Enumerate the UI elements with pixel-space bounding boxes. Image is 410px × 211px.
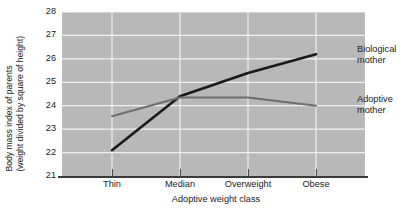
series-label-adoptive-line-1: Adoptive — [357, 94, 393, 105]
series-lines — [112, 54, 316, 150]
y-axis-tick-labels: 2827262524232221 — [34, 0, 56, 211]
y-tick-label-26: 26 — [34, 54, 56, 63]
chart-figure: Body mass index of parents (weight divid… — [0, 0, 410, 211]
x-tick-label-thin: Thin — [103, 180, 121, 189]
x-tick-label-median: Median — [165, 180, 195, 189]
y-tick-label-23: 23 — [34, 125, 56, 134]
plot-area — [62, 12, 365, 176]
y-tick-label-28: 28 — [34, 7, 56, 16]
series-label-biological-line-2: mother — [357, 55, 396, 66]
y-axis-title-line-1: Body mass index of parents — [5, 66, 14, 172]
x-axis-title-text: Adoptive weight class — [172, 194, 260, 204]
y-tick-label-24: 24 — [34, 101, 56, 110]
y-tick-label-25: 25 — [34, 78, 56, 87]
series-label-biological-mother: Biological mother — [357, 44, 396, 66]
x-axis-title: Adoptive weight class — [0, 195, 410, 204]
x-tick-mark-overweight — [248, 169, 249, 176]
y-tick-label-21: 21 — [34, 171, 56, 180]
x-tick-label-overweight: Overweight — [225, 180, 271, 189]
x-tick-mark-thin — [112, 169, 113, 176]
series-label-adoptive-line-2: mother — [357, 105, 393, 116]
x-tick-mark-median — [180, 169, 181, 176]
series-line-adoptive-mother — [112, 98, 316, 117]
plot-svg — [62, 12, 365, 176]
x-axis-line — [58, 176, 368, 178]
y-axis-title-line-2: (weight divided by square of height) — [16, 36, 25, 172]
series-label-biological-line-1: Biological — [357, 44, 396, 55]
x-tick-mark-obese — [316, 169, 317, 176]
x-tick-label-obese: Obese — [302, 180, 329, 189]
gridlines — [62, 12, 365, 176]
y-tick-label-27: 27 — [34, 31, 56, 40]
y-axis-title: Body mass index of parents (weight divid… — [0, 0, 34, 178]
y-tick-label-22: 22 — [34, 148, 56, 157]
series-label-adoptive-mother: Adoptive mother — [357, 94, 393, 116]
